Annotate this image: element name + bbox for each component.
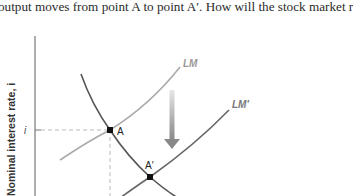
lm-prime-label: LM′: [232, 99, 249, 110]
point-a-prime-marker: [147, 174, 153, 180]
is-curve: [81, 74, 178, 196]
point-a-prime-label: A′: [145, 160, 154, 171]
shift-down-arrow: [164, 90, 180, 149]
lm-label: LM: [183, 58, 198, 69]
y-axis-label: Nominal interest rate, i: [5, 83, 17, 196]
point-a-marker: [107, 127, 113, 133]
point-a-label: A: [117, 126, 124, 137]
y-tick-label: i: [24, 125, 27, 136]
lm-curve: [60, 67, 180, 160]
